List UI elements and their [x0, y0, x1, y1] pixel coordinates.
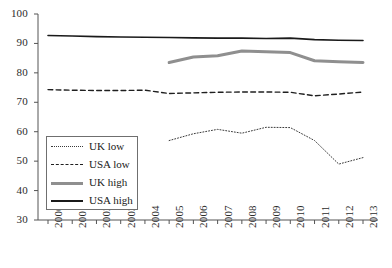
- series-line-uk-low: [169, 127, 363, 164]
- legend-swatch-usa-high-icon: [51, 195, 83, 205]
- y-tick-label: 100: [2, 8, 28, 19]
- legend-item-usa-low: USA low: [47, 155, 137, 173]
- x-tick-label: 2010: [295, 205, 306, 228]
- y-tick-label: 30: [2, 214, 28, 225]
- x-tick-label: 2012: [344, 205, 355, 228]
- y-tick-label: 80: [2, 67, 28, 78]
- y-tick-label: 90: [2, 37, 28, 48]
- y-tick-label: 40: [2, 185, 28, 196]
- legend-swatch-uk-low-icon: [51, 141, 83, 151]
- series-line-uk-high: [169, 51, 363, 62]
- x-tick-label: 2011: [320, 206, 331, 228]
- line-chart: 30405060708090100 2000200120022003200420…: [0, 0, 392, 268]
- x-tick-label: 2009: [271, 205, 282, 228]
- legend-label-usa-low: USA low: [83, 159, 130, 170]
- legend-item-uk-high: UK high: [47, 173, 137, 191]
- series-line-usa-low: [48, 90, 363, 96]
- x-tick-label: 2007: [223, 205, 234, 228]
- x-tick-label: 2013: [368, 205, 379, 228]
- x-tick-label: 2004: [150, 205, 161, 228]
- legend-swatch-uk-high-icon: [51, 177, 83, 187]
- legend-label-usa-high: USA high: [83, 195, 133, 206]
- y-tick-label: 50: [2, 155, 28, 166]
- x-tick-label: 2008: [247, 205, 258, 228]
- legend-label-uk-high: UK high: [83, 177, 127, 188]
- y-tick-label: 70: [2, 96, 28, 107]
- legend-item-usa-high: USA high: [47, 191, 137, 209]
- legend: UK low USA low UK high USA high: [46, 136, 138, 210]
- x-tick-label: 2005: [174, 205, 185, 228]
- x-tick-label: 2006: [198, 205, 209, 228]
- legend-item-uk-low: UK low: [47, 137, 137, 155]
- series-line-usa-high: [48, 35, 363, 40]
- y-tick-label: 60: [2, 126, 28, 137]
- legend-swatch-usa-low-icon: [51, 159, 83, 169]
- legend-label-uk-low: UK low: [83, 141, 124, 152]
